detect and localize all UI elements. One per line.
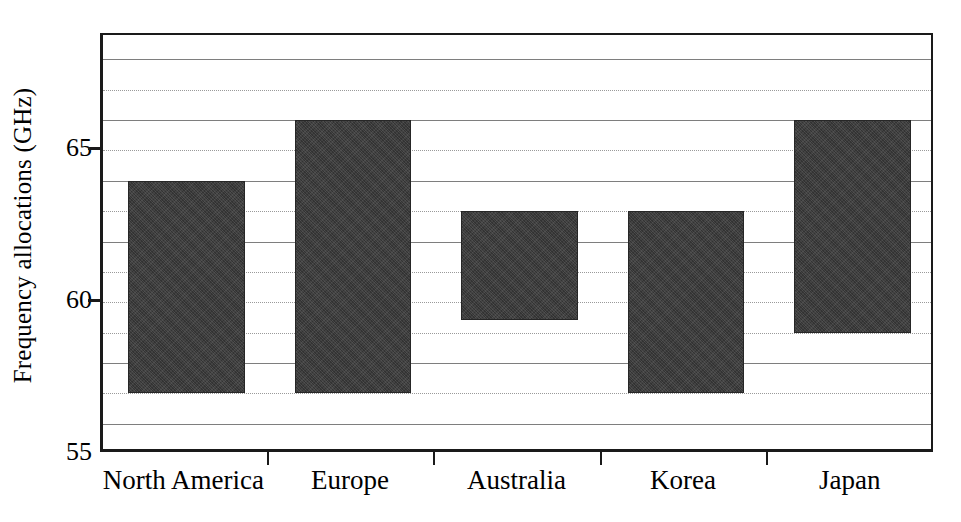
y-tick-label-60: 60 (38, 287, 92, 313)
y-tick-mark-60 (88, 299, 103, 302)
x-tick-mark (433, 452, 435, 465)
x-tick-label-europe: Europe (311, 466, 389, 496)
bar-europe (295, 120, 412, 393)
x-tick-label-north-america: North America (103, 466, 264, 496)
x-tick-mark (600, 452, 602, 465)
x-tick-label-korea: Korea (650, 466, 716, 496)
y-tick-mark-65 (88, 147, 103, 150)
plot-area (100, 33, 933, 452)
x-tick-label-australia: Australia (467, 466, 566, 496)
y-axis-tick-labels: 556065 (24, 0, 92, 522)
bar-australia (461, 211, 578, 320)
x-tick-label-japan: Japan (819, 466, 880, 496)
bar-japan (794, 120, 911, 333)
x-tick-mark (766, 452, 768, 465)
bars-layer (103, 35, 931, 449)
y-tick-label-65: 65 (38, 135, 92, 161)
bar-korea (628, 211, 745, 393)
bar-north-america (128, 181, 245, 394)
chart-figure: Frequency allocations (GHz) 556065 North… (0, 0, 961, 522)
x-tick-mark (267, 452, 269, 465)
y-tick-label-55: 55 (38, 439, 92, 465)
